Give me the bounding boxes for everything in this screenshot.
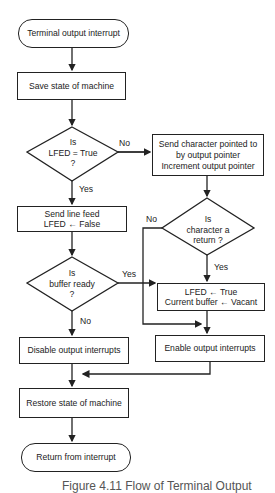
save-state-box: Save state of machine [17, 72, 126, 100]
disable-label: Disable output interrupts [27, 345, 120, 356]
buffer-yes-label: Yes [122, 269, 136, 279]
decision-lfed-line1: Is [37, 137, 109, 148]
send-char-line3: Increment output pointer [161, 161, 254, 172]
decision-lfed-line3: ? [37, 158, 109, 169]
end-label: Return from interrupt [36, 452, 115, 463]
save-state-label: Save state of machine [29, 81, 114, 92]
send-char-line1: Send character pointed to [159, 139, 257, 150]
figure-caption: Figure 4.11 Flow of Terminal Output [62, 479, 252, 493]
decision-buffer-line1: Is [36, 268, 108, 279]
set-lfed-line1: LFED ← True [185, 287, 238, 298]
send-linefeed-box: Send line feed LFED ← False [17, 206, 127, 232]
decision-buffer-line3: ? [36, 289, 108, 300]
disable-interrupts-box: Disable output interrupts [19, 337, 129, 364]
buffer-no-label: No [80, 316, 91, 326]
lfed-no-label: No [119, 138, 130, 148]
set-lfed-line2: Current buffer ← Vacant [165, 297, 257, 308]
decision-buffer: Is buffer ready ? [36, 268, 108, 300]
restore-state-box: Restore state of machine [19, 388, 129, 418]
send-linefeed-line1: Send line feed [45, 209, 100, 220]
decision-lfed: Is LFED = True ? [37, 137, 109, 169]
enable-label: Enable output interrupts [164, 343, 255, 354]
decision-lfed-line2: LFED = True [37, 148, 109, 159]
set-lfed-box: LFED ← True Current buffer ← Vacant [157, 283, 265, 311]
return-no-label: No [146, 214, 157, 224]
decision-return-line3: return ? [172, 235, 244, 246]
decision-buffer-line2: buffer ready [36, 279, 108, 290]
send-linefeed-line2: LFED ← False [44, 219, 100, 230]
send-char-line2: by output pointer [176, 150, 240, 161]
decision-return-line2: character a [172, 225, 244, 236]
send-char-box: Send character pointed to by output poin… [152, 134, 264, 176]
restore-label: Restore state of machine [26, 398, 122, 409]
start-terminal: Terminal output interrupt [18, 19, 129, 48]
decision-return: Is character a return ? [172, 214, 244, 246]
enable-interrupts-box: Enable output interrupts [155, 335, 265, 362]
end-terminal: Return from interrupt [21, 443, 131, 472]
lfed-yes-label: Yes [79, 184, 93, 194]
return-yes-label: Yes [214, 262, 228, 272]
decision-return-line1: Is [172, 214, 244, 225]
start-label: Terminal output interrupt [27, 28, 120, 39]
